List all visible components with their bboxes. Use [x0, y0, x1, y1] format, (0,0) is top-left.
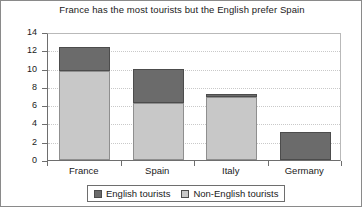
- legend-item: Non-English tourists: [181, 188, 278, 199]
- bar-segment-non-english: [59, 71, 110, 160]
- bar-germany: [280, 32, 331, 160]
- bar-segment-non-english: [206, 97, 257, 160]
- bar-segment-english: [133, 69, 184, 104]
- x-axis-tick-mark: [341, 161, 342, 166]
- y-axis-tick-label: 2: [7, 137, 37, 147]
- y-axis-tick-label: 0: [7, 155, 37, 165]
- y-axis-tick-label: 8: [7, 82, 37, 92]
- bar-spain: [133, 32, 184, 160]
- chart-legend: English touristsNon-English tourists: [87, 185, 285, 202]
- legend-label: Non-English tourists: [193, 188, 278, 199]
- y-axis-tick-label: 14: [7, 27, 37, 37]
- legend-swatch-icon: [181, 190, 189, 198]
- chart-title: France has the most tourists but the Eng…: [1, 4, 362, 15]
- legend-item: English tourists: [94, 188, 170, 199]
- bar-italy: [206, 32, 257, 160]
- x-axis-label-germany: Germany: [268, 165, 342, 176]
- x-axis-label-france: France: [47, 165, 121, 176]
- legend-label: English tourists: [106, 188, 170, 199]
- y-axis-tick-label: 4: [7, 118, 37, 128]
- x-axis-label-spain: Spain: [121, 165, 195, 176]
- bar-france: [59, 32, 110, 160]
- bar-segment-non-english: [133, 103, 184, 160]
- bar-segment-english: [280, 132, 331, 160]
- y-axis-tick-label: 6: [7, 100, 37, 110]
- bar-segment-english: [206, 94, 257, 97]
- x-axis-label-italy: Italy: [194, 165, 268, 176]
- chart-figure: France has the most tourists but the Eng…: [0, 0, 362, 207]
- y-axis-tick-label: 12: [7, 45, 37, 55]
- bar-segment-english: [59, 47, 110, 72]
- legend-swatch-icon: [94, 190, 102, 198]
- plot-area: [47, 33, 341, 161]
- y-axis-tick-label: 10: [7, 64, 37, 74]
